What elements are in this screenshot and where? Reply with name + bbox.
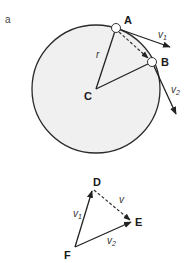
label-F: F xyxy=(64,249,71,261)
circular-motion-diagram: a A B C r v1 v2 D E F v1 v2 v xyxy=(0,0,188,263)
label-C: C xyxy=(84,90,92,102)
label-triangle-v2: v2 xyxy=(107,235,116,247)
point-A-marker xyxy=(112,24,121,33)
label-triangle-v1: v1 xyxy=(73,208,82,220)
panel-label: a xyxy=(5,14,11,25)
point-B-marker xyxy=(148,58,157,67)
label-A: A xyxy=(124,14,132,26)
label-v1: v1 xyxy=(158,29,167,41)
label-D: D xyxy=(93,176,101,188)
label-triangle-v: v xyxy=(119,194,125,205)
label-B: B xyxy=(161,56,169,68)
vector-FE-v2 xyxy=(75,222,131,247)
vector-DE-v xyxy=(94,190,130,220)
label-v2: v2 xyxy=(171,84,180,96)
label-E: E xyxy=(135,216,142,228)
